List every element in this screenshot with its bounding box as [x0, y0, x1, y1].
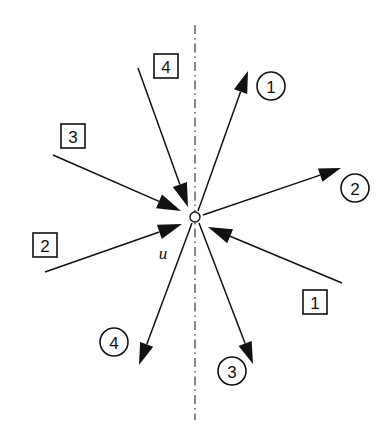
box-label-text-1: 1 [310, 294, 319, 313]
arrowhead-in-3 [156, 195, 181, 211]
outgoing-ray-line-1 [198, 92, 241, 211]
arrowhead-out-4 [139, 342, 153, 365]
incoming-ray-line-4 [138, 68, 180, 184]
incoming-ray-line-3 [53, 155, 159, 201]
vector-diagram: 4321 1234 u [0, 0, 383, 429]
center-variable-label: u [159, 244, 168, 263]
circle-label-text-2: 2 [350, 180, 359, 199]
outgoing-ray-line-4 [147, 223, 192, 344]
incoming-ray-line-2 [45, 232, 159, 272]
arrowhead-in-2 [157, 224, 182, 239]
incoming-ray-line-1 [230, 236, 342, 283]
diagram-canvas: 4321 1234 u [0, 0, 383, 429]
circle-label-text-1: 1 [266, 78, 275, 97]
box-label-text-4: 4 [161, 58, 170, 77]
convergence-node-dot [190, 212, 200, 222]
circle-label-text-4: 4 [109, 334, 118, 353]
circle-label-text-3: 3 [227, 363, 236, 382]
arrowhead-out-1 [234, 71, 248, 94]
incoming-rays-group [45, 68, 342, 283]
arrowheads-group [139, 71, 341, 365]
circled-labels-group: 1234 [100, 72, 369, 385]
box-label-text-3: 3 [68, 128, 77, 147]
outgoing-rays-group [147, 92, 320, 345]
box-label-text-2: 2 [40, 237, 49, 256]
arrowhead-in-1 [208, 227, 233, 243]
outgoing-ray-line-2 [203, 175, 320, 215]
arrowhead-in-4 [173, 182, 188, 207]
outgoing-ray-line-3 [199, 223, 245, 343]
arrowhead-out-2 [318, 168, 341, 182]
